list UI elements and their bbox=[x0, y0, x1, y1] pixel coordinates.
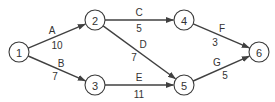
edge-g-name: G bbox=[213, 57, 221, 68]
edge-f-name: F bbox=[219, 23, 225, 34]
edge-d-weight: 7 bbox=[131, 52, 137, 63]
edge-e-weight: 11 bbox=[134, 89, 145, 100]
edge-b-weight: 7 bbox=[52, 71, 58, 82]
node-5: 5 bbox=[174, 75, 194, 95]
node-label: 4 bbox=[181, 15, 187, 27]
node-6: 6 bbox=[249, 42, 269, 62]
node-2: 2 bbox=[85, 10, 105, 30]
network-diagram: 123456 A10B7C5D7E11F3G5 bbox=[0, 0, 275, 102]
node-4: 4 bbox=[174, 10, 194, 30]
edge-c-weight: 5 bbox=[136, 23, 142, 34]
edge-e-name: E bbox=[136, 72, 143, 83]
node-1: 1 bbox=[9, 42, 29, 62]
node-label: 2 bbox=[92, 15, 98, 27]
node-label: 3 bbox=[92, 80, 98, 92]
edge-c-name: C bbox=[135, 7, 142, 18]
edge-g-weight: 5 bbox=[222, 70, 228, 81]
node-3: 3 bbox=[85, 75, 105, 95]
edge-b-name: B bbox=[58, 58, 65, 69]
node-label: 5 bbox=[181, 80, 187, 92]
edge-d-name: D bbox=[139, 39, 146, 50]
node-label: 6 bbox=[256, 47, 262, 59]
edge-a-weight: 10 bbox=[51, 40, 63, 51]
node-label: 1 bbox=[16, 47, 22, 59]
edge-a-name: A bbox=[49, 25, 56, 36]
edge-f-weight: 3 bbox=[212, 37, 218, 48]
